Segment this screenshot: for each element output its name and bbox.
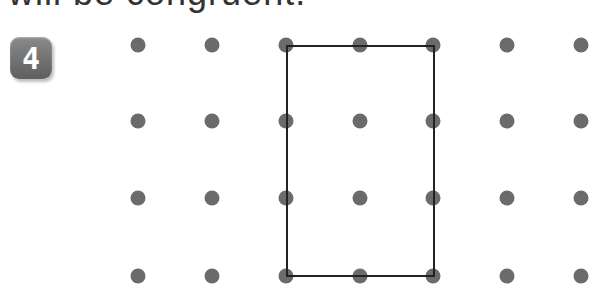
grid-dot [574,191,589,206]
grid-dot [500,38,515,53]
grid-dot [205,191,220,206]
drawn-rectangle [287,46,434,276]
grid-dot [131,114,146,129]
grid-dot [500,114,515,129]
grid-dot [574,38,589,53]
grid-dot [353,191,368,206]
grid-dot [131,269,146,284]
grid-dot [205,269,220,284]
grid-dot [131,38,146,53]
grid-dot [205,114,220,129]
grid-dot [131,191,146,206]
grid-dot [353,114,368,129]
grid-dot [500,191,515,206]
grid-dot [574,269,589,284]
grid-dot [205,38,220,53]
dot-grid [0,0,607,298]
grid-dot [574,114,589,129]
grid-dot [500,269,515,284]
